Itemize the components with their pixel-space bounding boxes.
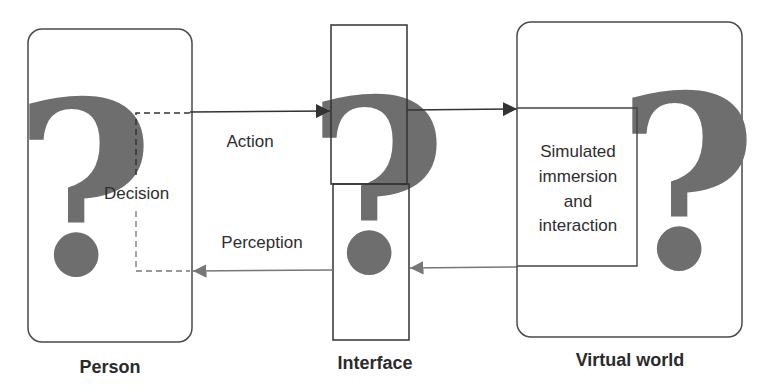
simulated-text-line-1: Simulated xyxy=(540,142,616,161)
perception-arrow xyxy=(193,270,333,271)
interface-label: Interface xyxy=(337,353,412,373)
action-label: Action xyxy=(226,132,273,151)
virtual-world-label: Virtual world xyxy=(576,350,685,370)
simulated-text-line-3: and xyxy=(564,192,592,211)
virtual-world-question-icon: ? xyxy=(617,43,758,325)
action-arrow xyxy=(190,111,330,112)
world-to-interface-arrow xyxy=(410,267,517,268)
decision-label: Decision xyxy=(104,184,169,203)
perception-label: Perception xyxy=(221,233,302,252)
interface-to-world-arrow xyxy=(407,109,517,110)
interface-node: ? Interface xyxy=(307,25,448,373)
simulated-text-line-2: immersion xyxy=(539,167,617,186)
interface-question-icon: ? xyxy=(307,47,448,329)
hci-diagram: ? Person Decision ? Interface Action Per… xyxy=(0,0,766,388)
simulated-text-line-4: interaction xyxy=(539,216,617,235)
person-node: ? Person xyxy=(14,29,192,377)
person-label: Person xyxy=(79,357,140,377)
virtual-world-node: ? Simulated immersion and interaction Vi… xyxy=(517,22,757,370)
